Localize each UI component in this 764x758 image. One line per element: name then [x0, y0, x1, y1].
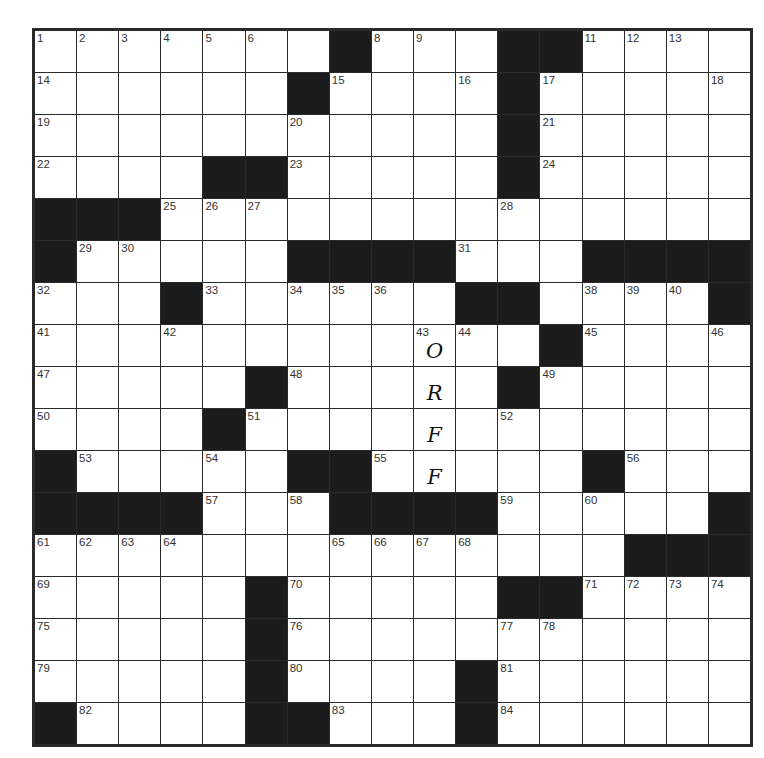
grid-cell-r11-c14[interactable]	[625, 493, 666, 534]
grid-cell-r10-c2[interactable]	[119, 451, 160, 492]
grid-cell-r9-c5[interactable]: 51	[246, 409, 287, 450]
grid-cell-r3-c15[interactable]	[667, 157, 708, 198]
grid-cell-r13-c3[interactable]	[161, 577, 202, 618]
grid-cell-r12-c12[interactable]	[540, 535, 581, 576]
grid-cell-r1-c12[interactable]: 17	[540, 73, 581, 114]
grid-cell-r14-c3[interactable]	[161, 619, 202, 660]
grid-cell-r14-c6[interactable]: 76	[288, 619, 329, 660]
grid-cell-r0-c13[interactable]: 11	[583, 31, 624, 72]
grid-cell-r10-c4[interactable]: 54	[203, 451, 244, 492]
grid-cell-r6-c13[interactable]: 38	[583, 283, 624, 324]
grid-cell-r2-c14[interactable]	[625, 115, 666, 156]
grid-cell-r4-c11[interactable]: 28	[498, 199, 539, 240]
grid-cell-r14-c8[interactable]	[372, 619, 413, 660]
grid-cell-r9-c2[interactable]	[119, 409, 160, 450]
grid-cell-r10-c9[interactable]: F	[414, 451, 455, 492]
grid-cell-r9-c15[interactable]	[667, 409, 708, 450]
grid-cell-r0-c6[interactable]	[288, 31, 329, 72]
grid-cell-r4-c8[interactable]	[372, 199, 413, 240]
grid-cell-r8-c3[interactable]	[161, 367, 202, 408]
grid-cell-r13-c6[interactable]: 70	[288, 577, 329, 618]
grid-cell-r3-c0[interactable]: 22	[35, 157, 76, 198]
grid-cell-r7-c4[interactable]	[203, 325, 244, 366]
grid-cell-r4-c12[interactable]	[540, 199, 581, 240]
grid-cell-r1-c9[interactable]	[414, 73, 455, 114]
grid-cell-r8-c14[interactable]	[625, 367, 666, 408]
grid-cell-r1-c10[interactable]: 16	[456, 73, 497, 114]
grid-cell-r6-c2[interactable]	[119, 283, 160, 324]
grid-cell-r1-c13[interactable]	[583, 73, 624, 114]
grid-cell-r3-c13[interactable]	[583, 157, 624, 198]
grid-cell-r14-c11[interactable]: 77	[498, 619, 539, 660]
grid-cell-r7-c14[interactable]	[625, 325, 666, 366]
grid-cell-r2-c13[interactable]	[583, 115, 624, 156]
grid-cell-r16-c4[interactable]	[203, 703, 244, 744]
grid-cell-r2-c12[interactable]: 21	[540, 115, 581, 156]
grid-cell-r5-c5[interactable]	[246, 241, 287, 282]
grid-cell-r3-c14[interactable]	[625, 157, 666, 198]
grid-cell-r12-c6[interactable]	[288, 535, 329, 576]
grid-cell-r13-c9[interactable]	[414, 577, 455, 618]
grid-cell-r8-c6[interactable]: 48	[288, 367, 329, 408]
grid-cell-r15-c1[interactable]	[77, 661, 118, 702]
grid-cell-r0-c0[interactable]: 1	[35, 31, 76, 72]
grid-cell-r0-c2[interactable]: 3	[119, 31, 160, 72]
grid-cell-r11-c4[interactable]: 57	[203, 493, 244, 534]
grid-cell-r7-c5[interactable]	[246, 325, 287, 366]
grid-cell-r12-c5[interactable]	[246, 535, 287, 576]
grid-cell-r7-c6[interactable]	[288, 325, 329, 366]
grid-cell-r8-c12[interactable]: 49	[540, 367, 581, 408]
grid-cell-r8-c4[interactable]	[203, 367, 244, 408]
grid-cell-r2-c2[interactable]	[119, 115, 160, 156]
grid-cell-r6-c5[interactable]	[246, 283, 287, 324]
grid-cell-r14-c0[interactable]: 75	[35, 619, 76, 660]
grid-cell-r9-c11[interactable]: 52	[498, 409, 539, 450]
grid-cell-r14-c16[interactable]	[709, 619, 750, 660]
grid-cell-r5-c1[interactable]: 29	[77, 241, 118, 282]
grid-cell-r2-c4[interactable]	[203, 115, 244, 156]
grid-cell-r7-c16[interactable]: 46	[709, 325, 750, 366]
grid-cell-r9-c3[interactable]	[161, 409, 202, 450]
grid-cell-r10-c11[interactable]	[498, 451, 539, 492]
grid-cell-r11-c15[interactable]	[667, 493, 708, 534]
grid-cell-r14-c10[interactable]	[456, 619, 497, 660]
grid-cell-r12-c3[interactable]: 64	[161, 535, 202, 576]
grid-cell-r5-c3[interactable]	[161, 241, 202, 282]
grid-cell-r1-c0[interactable]: 14	[35, 73, 76, 114]
grid-cell-r4-c3[interactable]: 25	[161, 199, 202, 240]
grid-cell-r5-c11[interactable]	[498, 241, 539, 282]
grid-cell-r1-c2[interactable]	[119, 73, 160, 114]
grid-cell-r4-c10[interactable]	[456, 199, 497, 240]
grid-cell-r12-c9[interactable]: 67	[414, 535, 455, 576]
grid-cell-r11-c6[interactable]: 58	[288, 493, 329, 534]
grid-cell-r4-c13[interactable]	[583, 199, 624, 240]
grid-cell-r9-c0[interactable]: 50	[35, 409, 76, 450]
grid-cell-r15-c8[interactable]	[372, 661, 413, 702]
grid-cell-r15-c2[interactable]	[119, 661, 160, 702]
grid-cell-r6-c15[interactable]: 40	[667, 283, 708, 324]
grid-cell-r6-c0[interactable]: 32	[35, 283, 76, 324]
grid-cell-r13-c15[interactable]: 73	[667, 577, 708, 618]
grid-cell-r1-c15[interactable]	[667, 73, 708, 114]
grid-cell-r6-c9[interactable]	[414, 283, 455, 324]
grid-cell-r8-c7[interactable]	[330, 367, 371, 408]
grid-cell-r3-c2[interactable]	[119, 157, 160, 198]
grid-cell-r8-c13[interactable]	[583, 367, 624, 408]
grid-cell-r15-c11[interactable]: 81	[498, 661, 539, 702]
grid-cell-r2-c0[interactable]: 19	[35, 115, 76, 156]
grid-cell-r9-c13[interactable]	[583, 409, 624, 450]
grid-cell-r12-c7[interactable]: 65	[330, 535, 371, 576]
grid-cell-r13-c13[interactable]: 71	[583, 577, 624, 618]
grid-cell-r14-c12[interactable]: 78	[540, 619, 581, 660]
grid-cell-r6-c1[interactable]	[77, 283, 118, 324]
grid-cell-r7-c10[interactable]: 44	[456, 325, 497, 366]
grid-cell-r0-c15[interactable]: 13	[667, 31, 708, 72]
grid-cell-r9-c8[interactable]	[372, 409, 413, 450]
grid-cell-r10-c12[interactable]	[540, 451, 581, 492]
grid-cell-r4-c7[interactable]	[330, 199, 371, 240]
grid-cell-r9-c1[interactable]	[77, 409, 118, 450]
grid-cell-r13-c1[interactable]	[77, 577, 118, 618]
grid-cell-r1-c8[interactable]	[372, 73, 413, 114]
grid-cell-r6-c4[interactable]: 33	[203, 283, 244, 324]
grid-cell-r16-c1[interactable]: 82	[77, 703, 118, 744]
